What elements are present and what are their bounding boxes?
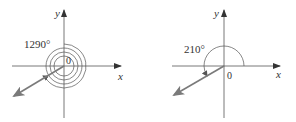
origin-label: 0 (227, 70, 232, 81)
left-diagram: 1290° 0 x y (12, 7, 123, 118)
y-axis-label: y (54, 7, 60, 19)
origin-label: 0 (66, 55, 71, 66)
y-axis-label: y (213, 7, 219, 19)
x-axis-label: x (117, 70, 123, 82)
terminal-ray (14, 66, 64, 96)
x-axis-label: x (275, 68, 281, 80)
figure: 1290° 0 x y 210° 0 x y (0, 0, 296, 122)
angle-label: 210° (184, 43, 205, 55)
terminal-ray (174, 66, 224, 95)
angle-label: 1290° (24, 38, 50, 50)
right-diagram: 210° 0 x y (172, 7, 281, 118)
